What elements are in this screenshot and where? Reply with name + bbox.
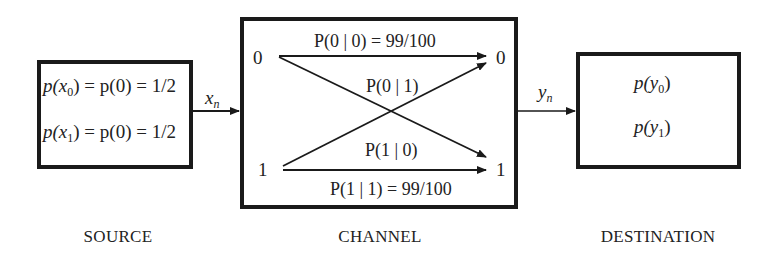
channel-caption: CHANNEL (338, 227, 421, 247)
channel-output-label: yn (538, 82, 552, 104)
channel-output-0: 0 (496, 48, 506, 67)
source-prob-x1: p(x1) = p(0) = 1/2 (43, 122, 176, 144)
destination-caption: DESTINATION (601, 227, 716, 247)
channel-p01-label: P(0 | 1) (366, 77, 419, 95)
destination-prob-y1: p(y1) (634, 117, 671, 139)
source-output-label: xn (205, 88, 219, 110)
channel-p11-label: P(1 | 1) = 99/100 (330, 180, 452, 198)
destination-prob-y0: p(y0) (634, 73, 671, 95)
channel-p00-label: P(0 | 0) = 99/100 (314, 32, 436, 50)
channel-input-0: 0 (253, 48, 263, 67)
channel-input-1: 1 (258, 160, 268, 179)
source-prob-x0: p(x0) = p(0) = 1/2 (43, 76, 176, 98)
channel-p10-label: P(1 | 0) (365, 141, 418, 159)
source-caption: SOURCE (84, 227, 153, 247)
channel-output-1: 1 (496, 160, 506, 179)
